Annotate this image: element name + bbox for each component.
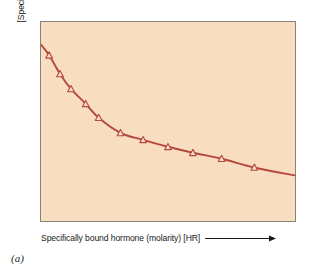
x-axis-label-text: Specifically bound hormone (molarity) [H… [41,233,200,243]
panel-caption: (a) [11,252,24,264]
scatchard-plot-figure: [Specifically bound hormone] / [free hor… [0,0,310,276]
data-curve [41,45,295,176]
y-axis-label: [Specifically bound hormone] / [free hor… [12,0,30,39]
y-axis-label-text: [Specifically bound hormone] / [free hor… [12,0,30,39]
marker-layer [46,52,258,170]
plot-canvas [41,22,295,221]
right-arrow-icon [205,234,277,243]
curve-layer [41,45,295,176]
x-axis-label: Specifically bound hormone (molarity) [H… [41,231,277,245]
plot-area [40,21,296,222]
